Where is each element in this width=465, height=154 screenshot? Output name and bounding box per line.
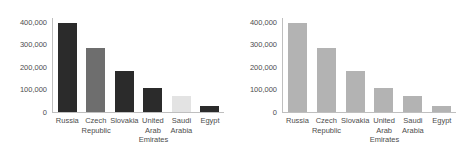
x-tick-label: UnitedArabEmirates [139,116,168,145]
x-tick-label: Russia [53,116,82,145]
x-tick-label-line: United [139,116,168,126]
x-tick-label: Russia [283,116,312,145]
x-tick-label: UnitedArabEmirates [370,116,399,145]
x-tick-label-line: Saudi [399,116,428,126]
bar-slot [82,18,110,112]
y-tick-label: 200,000 [20,64,52,72]
y-tick-label: 100,000 [250,87,282,95]
x-tick-label-line: Arab [139,126,168,136]
x-axis-line-right [282,112,456,113]
x-tick-labels-right: RussiaCzechRepublicSlovakiaUnitedArabEmi… [283,116,457,145]
x-tick-label-line: Russia [283,116,312,126]
x-tick-label-line: Czech [312,116,341,126]
bar [58,23,77,112]
x-tick-label: CzechRepublic [82,116,111,145]
x-tick-label: Slovakia [341,116,370,145]
bar [172,96,191,113]
y-tick-label: 100,000 [20,87,52,95]
bar [115,71,134,112]
bar [86,48,105,112]
x-tick-label-line: Czech [82,116,111,126]
bar-slot [312,18,341,112]
y-tick-label: 400,000 [20,19,52,27]
y-tick-label: 300,000 [250,41,282,49]
bar-group-right [283,18,456,112]
x-tick-label: SaudiArabia [167,116,196,145]
bar-slot [427,18,456,112]
chart-panel-left: 0100,000200,000300,000400,000 RussiaCzec… [0,0,232,154]
x-tick-label-line: Emirates [370,135,399,145]
bar-slot [283,18,312,112]
x-tick-label-line: Arabia [167,126,196,136]
plot-area-left: 0100,000200,000300,000400,000 [52,18,224,113]
x-tick-label-line: Arab [370,126,399,136]
x-tick-labels-left: RussiaCzechRepublicSlovakiaUnitedArabEmi… [53,116,225,145]
bar-slot [167,18,195,112]
x-tick-label-line: Russia [53,116,82,126]
x-tick-label-line: Emirates [139,135,168,145]
plot-area-right: 0100,000200,000300,000400,000 [282,18,456,113]
bar-group-left [53,18,224,112]
bar-slot [139,18,167,112]
bar-slot [370,18,399,112]
x-tick-label-line: Saudi [167,116,196,126]
x-tick-label-line: Egypt [427,116,456,126]
bar [432,106,451,112]
x-tick-label: Egypt [196,116,225,145]
x-tick-label: CzechRepublic [312,116,341,145]
bar-slot [110,18,138,112]
bar [200,106,219,112]
bar [288,23,307,112]
y-tick-label: 0 [273,109,282,117]
x-tick-label-line: Arabia [399,126,428,136]
x-tick-label-line: Egypt [196,116,225,126]
y-tick-label: 0 [43,109,52,117]
bar-slot [53,18,81,112]
x-tick-label-line: United [370,116,399,126]
y-tick-label: 200,000 [250,64,282,72]
chart-panel-right: 0100,000200,000300,000400,000 RussiaCzec… [232,0,465,154]
y-tick-label: 300,000 [20,41,52,49]
x-tick-label-line: Slovakia [341,116,370,126]
x-tick-label: SaudiArabia [399,116,428,145]
bar-slot [398,18,427,112]
bar [374,88,393,112]
bar-slot [196,18,224,112]
x-tick-label-line: Slovakia [110,116,139,126]
x-tick-label-line: Republic [312,126,341,136]
x-tick-label: Egypt [427,116,456,145]
bar [317,48,336,112]
bar-chart-pair: 0100,000200,000300,000400,000 RussiaCzec… [0,0,465,154]
y-tick-label: 400,000 [250,19,282,27]
x-tick-label-line: Republic [82,126,111,136]
bar [403,96,422,113]
bar [143,88,162,112]
x-axis-line-left [52,112,224,113]
bar [346,71,365,112]
bar-slot [341,18,370,112]
x-tick-label: Slovakia [110,116,139,145]
